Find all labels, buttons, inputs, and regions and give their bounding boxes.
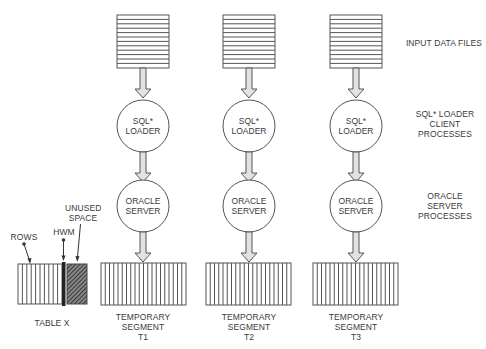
segment-label-line: T1	[113, 332, 173, 342]
segment-label-t1: TEMPORARY SEGMENT T1	[113, 312, 173, 342]
rows-label: ROWS	[9, 232, 39, 242]
segment-label-t3: TEMPORARY SEGMENT T3	[326, 312, 386, 342]
input-data-file-2	[223, 15, 275, 68]
server-label-line: SERVER	[331, 206, 381, 216]
segment-label-line: TEMPORARY	[113, 312, 173, 322]
column-3	[313, 15, 398, 305]
segment-label-line: TEMPORARY	[326, 312, 386, 322]
label-line: ORACLE	[410, 191, 480, 201]
arrow-loader-to-server-2	[241, 152, 257, 182]
hwm-label: HWM	[49, 227, 79, 237]
hwm-marker	[62, 262, 66, 306]
loader-label-line: SQL*	[224, 116, 274, 126]
label-line: SERVER	[410, 201, 480, 211]
segment-label-line: TEMPORARY	[219, 312, 279, 322]
unused-space-label: UNUSED SPACE	[65, 203, 101, 223]
loader-label-line: SQL*	[331, 116, 381, 126]
label-line: SQL* LOADER	[410, 109, 480, 119]
segment-label-line: T3	[326, 332, 386, 342]
server-label-line: SERVER	[118, 206, 168, 216]
segment-label-line: SEGMENT	[326, 322, 386, 332]
label-line: PROCESSES	[410, 211, 480, 221]
column-1	[101, 15, 186, 305]
loader-label-line: LOADER	[331, 126, 381, 136]
server-label-2: ORACLE SERVER	[224, 196, 274, 216]
sql-loader-client-processes-label: SQL* LOADER CLIENT PROCESSES	[410, 109, 480, 139]
temporary-segment-t3	[313, 263, 398, 305]
arrow-file-to-loader-2	[241, 68, 257, 98]
table-x-label: TABLE X	[22, 318, 82, 328]
server-label-line: SERVER	[224, 206, 274, 216]
input-data-files-label: INPUT DATA FILES	[404, 38, 484, 48]
loader-label-3: SQL* LOADER	[331, 116, 381, 136]
arrow-loader-to-server-3	[348, 152, 364, 182]
temporary-segment-t1	[101, 263, 186, 305]
oracle-server-processes-label: ORACLE SERVER PROCESSES	[410, 191, 480, 221]
server-label-line: ORACLE	[118, 196, 168, 206]
arrow-loader-to-server-1	[135, 152, 151, 182]
loader-label-line: SQL*	[118, 116, 168, 126]
arrow-server-to-segment-3	[348, 232, 364, 262]
segment-label-line: T2	[219, 332, 279, 342]
segment-label-t2: TEMPORARY SEGMENT T2	[219, 312, 279, 342]
unused-label-line: UNUSED	[65, 203, 101, 213]
label-line: CLIENT	[410, 119, 480, 129]
loader-label-line: LOADER	[224, 126, 274, 136]
arrow-file-to-loader-3	[348, 68, 364, 98]
loader-label-2: SQL* LOADER	[224, 116, 274, 136]
arrow-server-to-segment-1	[135, 232, 151, 262]
unused-space-area	[67, 264, 87, 304]
arrow-file-to-loader-1	[135, 68, 151, 98]
loader-label-1: SQL* LOADER	[118, 116, 168, 136]
loader-label-line: LOADER	[118, 126, 168, 136]
segment-label-line: SEGMENT	[219, 322, 279, 332]
arrow-server-to-segment-2	[241, 232, 257, 262]
input-data-file-3	[330, 15, 382, 68]
server-label-line: ORACLE	[331, 196, 381, 206]
server-label-line: ORACLE	[224, 196, 274, 206]
server-label-1: ORACLE SERVER	[118, 196, 168, 216]
diagram-canvas	[0, 0, 486, 349]
unused-label-line: SPACE	[65, 213, 101, 223]
column-2	[206, 15, 291, 305]
temporary-segment-t2	[206, 263, 291, 305]
label-line: PROCESSES	[410, 129, 480, 139]
input-data-file-1	[117, 15, 169, 68]
server-label-3: ORACLE SERVER	[331, 196, 381, 216]
segment-label-line: SEGMENT	[113, 322, 173, 332]
